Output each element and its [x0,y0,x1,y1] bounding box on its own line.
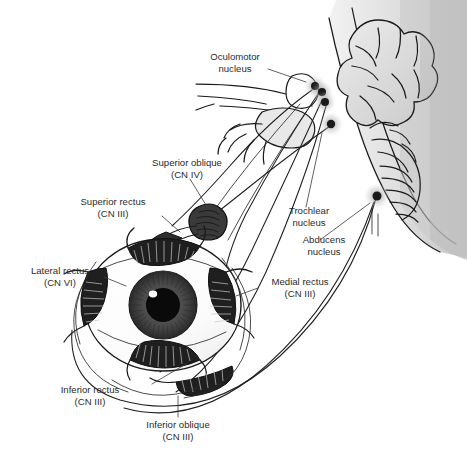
label-oculomotor-nucleus-line2: nucleus [218,63,251,74]
label-trochlear-nucleus-line2: nucleus [292,217,325,228]
label-lateral-rectus-line1: Lateral rectus [31,265,89,276]
label-trochlear-nucleus: Trochlear nucleus [289,205,330,228]
corneal-highlight [149,291,157,298]
abducens-nucleus-dot [364,183,390,209]
label-superior-oblique-line1: Superior oblique [152,157,222,168]
label-abducens-nucleus-line1: Abducens [303,234,346,245]
label-abducens-nucleus-line2: nucleus [307,246,340,257]
label-inferior-oblique-line1: Inferior oblique [146,419,209,430]
label-superior-oblique-line2: (CN IV) [171,169,203,180]
label-inferior-oblique-line2: (CN III) [163,431,194,442]
label-superior-rectus-line2: (CN III) [98,208,129,219]
label-oculomotor-nucleus-line1: Oculomotor [210,51,260,62]
label-inferior-rectus-line1: Inferior rectus [61,384,120,395]
oculomotor-nucleus-lower-dot [314,91,336,113]
label-superior-rectus-line1: Superior rectus [80,196,145,207]
label-abducens-nucleus: Abducens nucleus [303,234,346,257]
label-medial-rectus-line2: (CN III) [285,288,316,299]
label-lateral-rectus-line2: (CN VI) [44,277,76,288]
label-trochlear-nucleus-line1: Trochlear [289,205,330,216]
label-inferior-rectus-line2: (CN III) [75,396,106,407]
figure-canvas: Oculomotor nucleus Superior oblique (CN … [0,0,467,456]
trochlear-nucleus-dot [319,112,343,136]
label-medial-rectus-line1: Medial rectus [271,276,328,287]
